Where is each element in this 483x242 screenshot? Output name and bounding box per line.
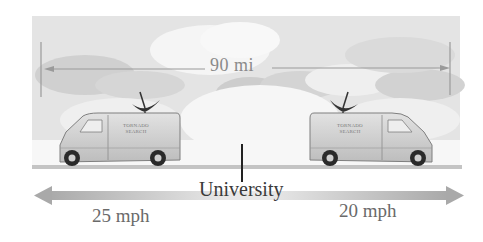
left-van-text: TORNADO SEARCH — [116, 123, 156, 135]
right-speed-label: 20 mph — [339, 200, 397, 222]
distance-label: 90 mi — [210, 55, 254, 76]
road — [32, 165, 462, 169]
word-problem-diagram: 90 mi TORNADO SEARCH TORNADO SEARCH Univ… — [0, 0, 483, 242]
university-label: University — [199, 178, 283, 201]
right-van-text-line2: SEARCH — [330, 129, 370, 135]
left-speed-label: 25 mph — [92, 205, 150, 227]
scene-illustration — [0, 0, 483, 242]
left-van-text-line2: SEARCH — [116, 129, 156, 135]
right-van-text: TORNADO SEARCH — [330, 123, 370, 135]
